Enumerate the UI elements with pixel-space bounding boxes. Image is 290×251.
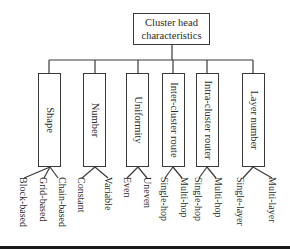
leaf-variable: Variable [103,177,114,210]
leaf-single-layer: Single-layer [235,177,246,226]
category-label: Shape [44,107,55,133]
bottom-rule [0,246,290,249]
category-uniformity: Uniformity [126,73,149,167]
leaf-inter-multi-hop: Multi-hop [179,177,190,218]
category-shape: Shape [38,73,61,167]
leaf-chain-based: Chain-based [57,177,68,227]
root-label-line2: characteristics [141,29,201,42]
leaf-multi-layer: Multi-layer [267,177,278,223]
root-label-line1: Cluster head [145,16,198,29]
category-label: Layer number [248,90,259,149]
leaf-constant: Constant [76,177,87,213]
category-label: Inter-cluster route [168,82,179,157]
leaf-inter-single-hop: Single-hop [159,177,170,221]
category-label: Intra-cluster router [202,80,213,159]
leaf-uneven: Uneven [142,177,153,208]
category-label: Uniformity [132,96,143,143]
category-inter-cluster-route: Inter-cluster route [162,73,185,167]
leaf-block-based: Block-based [18,177,29,227]
leaf-grid-based: Grid-based [38,177,49,221]
category-label: Number [89,103,100,137]
root-node: Cluster head characteristics [133,13,210,45]
category-intra-cluster-router: Intra-cluster router [196,73,219,167]
category-layer-number: Layer number [242,73,265,167]
leaf-intra-single-hop: Single-hop [193,177,204,221]
leaf-intra-multi-hop: Multi-hop [213,177,224,218]
category-number: Number [83,73,106,167]
leaf-even: Even [122,177,133,198]
